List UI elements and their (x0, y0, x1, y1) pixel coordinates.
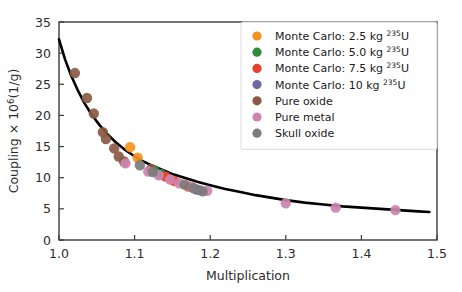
y-axis-title: Coupling × 106(1/g) (6, 69, 21, 194)
x-tick-label: 1.5 (427, 246, 447, 261)
x-tick-label: 1.1 (125, 246, 145, 261)
figure-container: 1.01.11.21.31.41.505101520253035Multipli… (0, 0, 462, 292)
x-tick-label: 1.0 (49, 246, 69, 261)
legend-swatch-mc50 (252, 48, 261, 57)
y-tick-label: 5 (43, 201, 51, 216)
data-point (120, 158, 130, 168)
legend-swatch-skull_oxide (252, 129, 261, 138)
data-point (148, 167, 158, 177)
x-axis-title: Multiplication (206, 268, 290, 283)
y-tick-label: 30 (35, 46, 51, 61)
data-point (82, 93, 92, 103)
legend-item-mc10[interactable]: Monte Carlo: 10 kg 235U (252, 78, 405, 92)
legend-swatch-mc10 (252, 80, 261, 89)
data-point (390, 205, 400, 215)
y-tick-label: 10 (35, 170, 51, 185)
data-point (165, 174, 175, 184)
legend-swatch-mc25 (252, 31, 261, 40)
legend-swatch-pure_metal (252, 112, 261, 121)
legend-label: Skull oxide (275, 127, 335, 140)
legend-swatch-pure_oxide (252, 96, 261, 105)
data-point (331, 202, 341, 212)
x-tick-label: 1.4 (351, 246, 371, 261)
legend-label: Pure metal (275, 111, 335, 124)
data-point (197, 186, 207, 196)
data-point (101, 134, 111, 144)
data-point (70, 68, 80, 78)
legend-item-mc50[interactable]: Monte Carlo: 5.0 kg 235U (252, 45, 409, 59)
y-tick-label: 20 (35, 108, 51, 123)
y-tick-label: 35 (35, 15, 51, 30)
y-tick-label: 0 (43, 233, 51, 248)
legend-label: Pure oxide (275, 95, 333, 108)
x-tick-label: 1.3 (276, 246, 296, 261)
data-point (135, 160, 145, 170)
coupling-vs-multiplication-chart: 1.01.11.21.31.41.505101520253035Multipli… (0, 0, 462, 292)
y-tick-label: 25 (35, 77, 51, 92)
data-point (89, 108, 99, 118)
series-pure_oxide (70, 68, 157, 174)
y-tick-label: 15 (35, 139, 51, 154)
data-point (125, 142, 135, 152)
data-point (281, 198, 291, 208)
legend-swatch-mc75 (252, 64, 261, 73)
x-tick-label: 1.2 (200, 246, 220, 261)
data-point (179, 179, 189, 189)
legend-item-mc25[interactable]: Monte Carlo: 2.5 kg 235U (252, 29, 409, 43)
legend[interactable]: Monte Carlo: 2.5 kg 235UMonte Carlo: 5.0… (241, 22, 437, 149)
legend-item-mc75[interactable]: Monte Carlo: 7.5 kg 235U (252, 61, 409, 75)
